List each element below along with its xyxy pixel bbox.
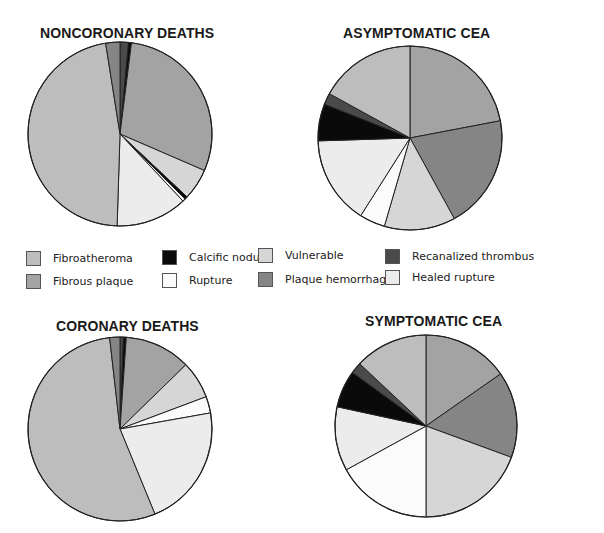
pie-coronary-deaths	[26, 335, 214, 523]
swatch-calcific-nodule	[162, 250, 177, 265]
chart-title: SYMPTOMATIC CEA	[365, 313, 502, 329]
legend-label: Plaque hemorrhage	[285, 273, 393, 286]
legend-label: Vulnerable	[285, 249, 344, 262]
legend-item-plaque-hemorrhage: Plaque hemorrhage	[258, 272, 393, 287]
legend-label: Fibroatheroma	[53, 252, 133, 265]
swatch-plaque-hemorrhage	[258, 272, 273, 287]
swatch-fibrous-plaque	[26, 274, 41, 289]
swatch-fibroatheroma	[26, 251, 41, 266]
chart-title: CORONARY DEATHS	[56, 318, 199, 334]
legend-item-recanalized-thrombus: Recanalized thrombus	[385, 249, 534, 264]
pie-slice-fibroatheroma	[28, 43, 120, 226]
swatch-recanalized-thrombus	[385, 249, 400, 264]
pie-symptomatic-cea	[333, 333, 519, 519]
legend-item-healed-rupture: Healed rupture	[385, 270, 495, 285]
legend-item-vulnerable: Vulnerable	[258, 248, 344, 263]
pie-noncoronary-deaths	[26, 40, 214, 228]
legend-label: Fibrous plaque	[53, 275, 133, 288]
legend-item-calcific-nodule: Calcific nodule	[162, 250, 270, 265]
legend: Fibroatheroma Fibrous plaque Calcific no…	[0, 245, 604, 295]
legend-item-rupture: Rupture	[162, 273, 232, 288]
swatch-rupture	[162, 273, 177, 288]
chart-title: NONCORONARY DEATHS	[40, 25, 214, 41]
pie-asymptomatic-cea	[316, 44, 504, 232]
legend-label: Healed rupture	[412, 271, 495, 284]
legend-item-fibrous-plaque: Fibrous plaque	[26, 274, 133, 289]
legend-item-fibroatheroma: Fibroatheroma	[26, 251, 133, 266]
legend-label: Recanalized thrombus	[412, 250, 534, 263]
swatch-healed-rupture	[385, 270, 400, 285]
legend-label: Rupture	[189, 274, 232, 287]
swatch-vulnerable	[258, 248, 273, 263]
chart-title: ASYMPTOMATIC CEA	[343, 25, 490, 41]
